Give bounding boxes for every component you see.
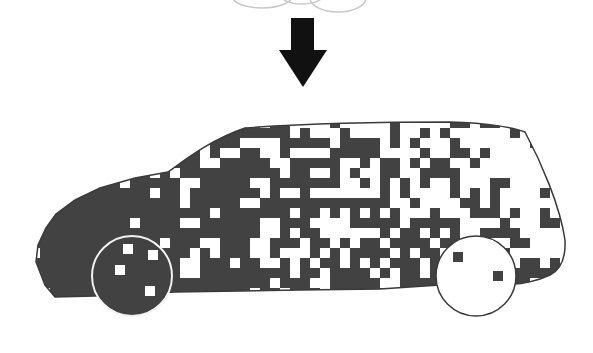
pixel-cell xyxy=(400,158,410,168)
pixel-cell xyxy=(250,178,260,188)
pixel-cell xyxy=(460,138,470,148)
rear-wheel xyxy=(436,236,516,316)
pixel-cell xyxy=(500,128,510,138)
pixel-cell xyxy=(440,178,450,188)
pixel-cell xyxy=(330,138,340,148)
pixel-cell xyxy=(480,138,490,148)
pixel-cell xyxy=(370,228,380,238)
pixel-cell xyxy=(270,148,280,158)
pixel-cell xyxy=(310,148,320,158)
pixel-cell xyxy=(540,238,550,248)
pixel-cell xyxy=(320,278,330,288)
pixel-cell xyxy=(190,258,200,268)
pixel-cell xyxy=(520,188,530,198)
pixel-cell xyxy=(400,168,410,178)
pixel-cell xyxy=(340,218,350,228)
pixel-cell xyxy=(530,188,540,198)
pixel-cell xyxy=(390,228,400,238)
pixel-cell xyxy=(260,138,270,148)
pixel-cell xyxy=(460,128,470,138)
pixel-cell xyxy=(150,188,160,198)
pixel-cell xyxy=(510,138,520,148)
pixel-cell xyxy=(440,198,450,208)
pixel-cell xyxy=(145,286,155,296)
pixel-cell xyxy=(410,148,420,158)
pixel-cell xyxy=(280,168,290,178)
pixel-cell xyxy=(380,258,390,268)
pixel-cell xyxy=(360,228,370,238)
pixel-cell xyxy=(520,158,530,168)
pixel-cell xyxy=(370,168,380,178)
pixel-cell xyxy=(320,128,330,138)
pixel-cell xyxy=(370,188,380,198)
pixel-cell xyxy=(530,238,540,248)
pixel-cell xyxy=(550,238,560,248)
pixel-cell xyxy=(550,228,560,238)
pixel-cell xyxy=(260,178,270,188)
pixel-cell xyxy=(340,248,350,258)
pixel-cell xyxy=(480,218,490,228)
pixel-cell xyxy=(180,198,190,208)
pixel-cell xyxy=(280,158,290,168)
pixel-cell xyxy=(440,148,450,158)
pixel-cell xyxy=(200,238,210,248)
pixel-cell xyxy=(260,258,270,268)
pixel-cell xyxy=(510,168,520,178)
pixel-cell xyxy=(130,218,140,228)
pixel-cell xyxy=(300,238,310,248)
pixel-cell xyxy=(320,218,330,228)
pixel-cell xyxy=(390,278,400,288)
pixel-cell xyxy=(510,218,520,228)
pixel-cell xyxy=(510,148,520,158)
pixel-cell xyxy=(520,178,530,188)
pixel-cell xyxy=(420,138,430,148)
pixel-cell xyxy=(470,178,480,188)
pixel-cell xyxy=(430,138,440,148)
pixel-cell xyxy=(123,244,133,254)
pixel-cell xyxy=(330,238,340,248)
pixel-cell xyxy=(360,188,370,198)
pixel-cell xyxy=(380,278,390,288)
pixel-cell xyxy=(520,248,530,258)
pixel-cell xyxy=(370,268,380,278)
pixel-cell xyxy=(380,138,390,148)
pixel-cell xyxy=(530,248,540,258)
pixel-cell xyxy=(400,138,410,148)
pixel-cell xyxy=(180,178,190,188)
pixel-cell xyxy=(470,148,480,158)
pixel-cell xyxy=(490,128,500,138)
pixel-cell xyxy=(280,188,290,198)
pixel-cell xyxy=(350,188,360,198)
pixel-cell xyxy=(240,198,250,208)
pixel-cell xyxy=(430,188,440,198)
pixel-cell xyxy=(320,248,330,258)
pixel-cell xyxy=(450,158,460,168)
pixel-cell xyxy=(460,218,470,228)
pixel-cell xyxy=(160,238,170,248)
pixel-cell xyxy=(380,208,390,218)
pixel-cell xyxy=(493,271,503,281)
pixel-cell xyxy=(290,228,300,238)
front-wheel xyxy=(92,236,172,316)
pixel-cell xyxy=(520,228,530,238)
pixel-cell xyxy=(320,148,330,158)
pixel-cell xyxy=(250,238,260,248)
pixel-cell xyxy=(460,208,470,218)
pixel-cell xyxy=(320,228,330,238)
pixel-cell xyxy=(410,248,420,258)
pixel-cell xyxy=(490,148,500,158)
pixel-cell xyxy=(210,248,220,258)
pixel-cell xyxy=(260,218,270,228)
pixel-cell xyxy=(500,138,510,148)
pixel-cell xyxy=(420,258,430,268)
pixel-cell xyxy=(430,128,440,138)
pixel-cell xyxy=(148,250,158,260)
pixel-cell xyxy=(370,128,380,138)
pixel-cell xyxy=(470,168,480,178)
pixel-cell xyxy=(320,208,330,218)
pixel-cell xyxy=(340,208,350,218)
pixel-cell xyxy=(360,128,370,138)
pixel-cell xyxy=(290,188,300,198)
pixel-cell xyxy=(450,128,460,138)
pixel-cell xyxy=(330,188,340,198)
